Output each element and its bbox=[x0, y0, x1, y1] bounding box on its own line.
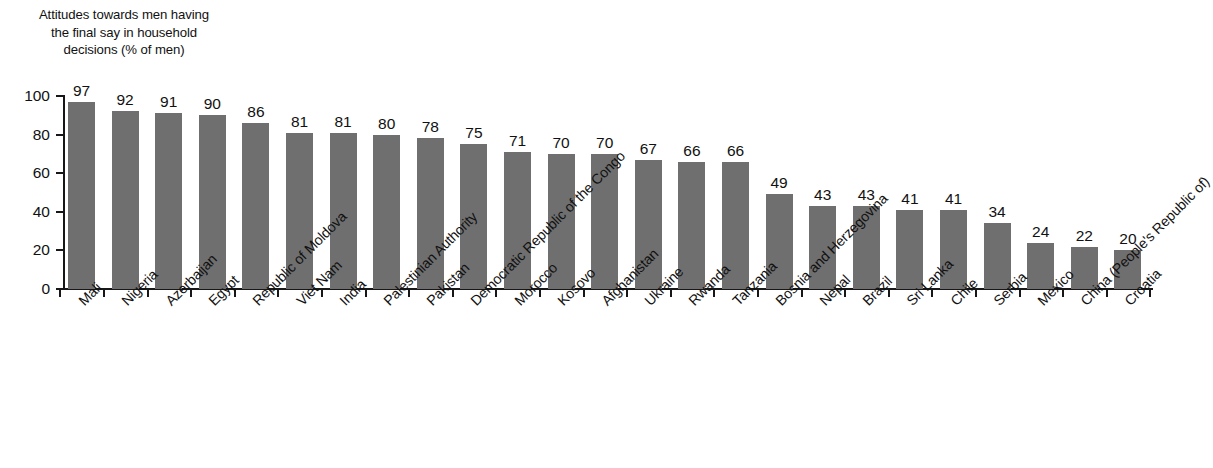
bar-value-label: 24 bbox=[1019, 224, 1063, 240]
bar-value-label: 92 bbox=[103, 92, 147, 108]
y-axis-tick-label: 40 bbox=[0, 204, 50, 220]
y-axis-tick-label: 20 bbox=[0, 242, 50, 258]
bar-value-label: 81 bbox=[321, 114, 365, 130]
bar[interactable] bbox=[112, 111, 139, 289]
y-axis-tick-label: 0 bbox=[0, 281, 50, 297]
bar[interactable] bbox=[896, 210, 923, 289]
bar-value-label: 43 bbox=[801, 187, 845, 203]
bar-value-label: 91 bbox=[147, 94, 191, 110]
bar-value-label: 49 bbox=[757, 175, 801, 191]
bar[interactable] bbox=[373, 135, 400, 289]
bar-value-label: 34 bbox=[975, 204, 1019, 220]
bar-value-label: 80 bbox=[365, 116, 409, 132]
bar-value-label: 41 bbox=[932, 191, 976, 207]
bar-value-label: 86 bbox=[234, 104, 278, 120]
bar-value-label: 75 bbox=[452, 125, 496, 141]
bar-value-label: 66 bbox=[670, 143, 714, 159]
bar-value-label: 97 bbox=[60, 83, 104, 99]
x-axis-tick bbox=[59, 290, 61, 297]
bar-value-label: 71 bbox=[496, 133, 540, 149]
bar[interactable] bbox=[68, 102, 95, 289]
y-axis-tick-label: 100 bbox=[0, 88, 50, 104]
bar-value-label: 22 bbox=[1062, 228, 1106, 244]
bar-value-label: 78 bbox=[408, 119, 452, 135]
bar[interactable] bbox=[242, 123, 269, 289]
y-axis-tick-label: 80 bbox=[0, 127, 50, 143]
plot-area bbox=[63, 96, 1152, 289]
bar-value-label: 70 bbox=[539, 135, 583, 151]
bar-value-label: 70 bbox=[583, 135, 627, 151]
bar-value-label: 67 bbox=[626, 141, 670, 157]
bar-value-label: 90 bbox=[190, 96, 234, 112]
bar-value-label: 41 bbox=[888, 191, 932, 207]
bar-value-label: 66 bbox=[714, 143, 758, 159]
chart-title: Attitudes towards men having the final s… bbox=[0, 6, 248, 59]
y-axis-tick-label: 60 bbox=[0, 165, 50, 181]
bar-value-label: 81 bbox=[278, 114, 322, 130]
bar[interactable] bbox=[155, 113, 182, 289]
